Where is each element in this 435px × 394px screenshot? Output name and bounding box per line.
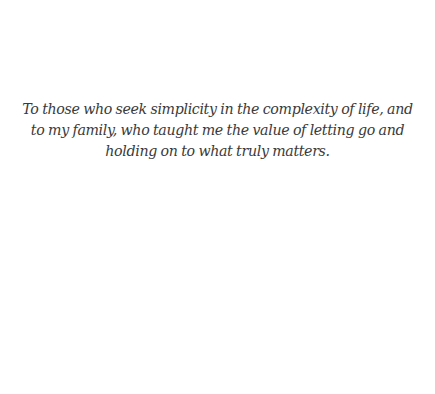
book-page: To those who seek simplicity in the comp… bbox=[0, 0, 435, 394]
dedication-text: To those who seek simplicity in the comp… bbox=[14, 99, 421, 162]
